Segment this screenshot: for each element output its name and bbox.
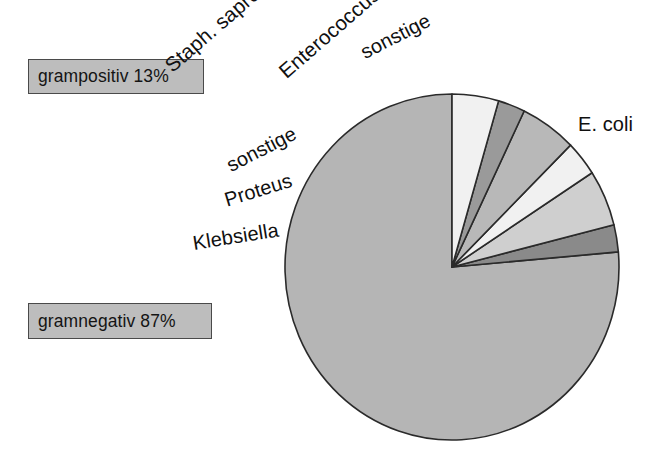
grampositiv-label: grampositiv 13% [38,66,169,87]
slice-label-e-coli: E. coli [578,113,633,136]
pie-slices-group [285,94,619,440]
pie-chart-figure: grampositiv 13% gramnegativ 87% Staph. s… [0,0,652,458]
gramnegativ-label: gramnegativ 87% [38,311,176,332]
gramnegativ-annotation-box: gramnegativ 87% [28,303,212,339]
